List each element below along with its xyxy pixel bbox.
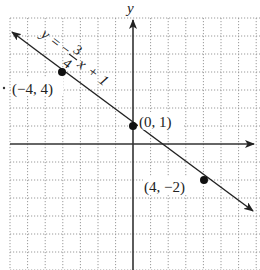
point-0-1 (129, 122, 137, 130)
point-neg4-4 (58, 68, 66, 76)
eq-plus: + (85, 63, 101, 81)
y-axis-label: y (125, 0, 134, 16)
stray-dot (3, 87, 5, 89)
point-label-4-neg2: (4, −2) (144, 179, 185, 196)
eq-const: 1 (96, 72, 112, 89)
point-label-0-1: (0, 1) (139, 114, 172, 131)
graph-line (12, 32, 40, 53)
point-4-neg2 (200, 176, 208, 184)
point-label-neg4-4: (−4, 4) (12, 81, 53, 98)
coordinate-plane: y y = − 3 4 x + 1 (−4, 4) (0, 1) (4, −2) (0, 0, 260, 270)
